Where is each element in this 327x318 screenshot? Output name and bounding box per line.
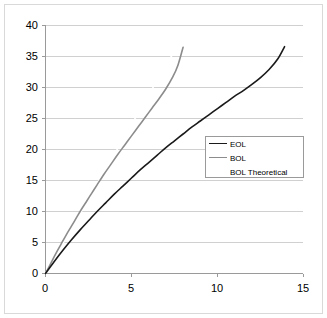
chart-legend: EOL BOL BOL Theoretical [205,136,304,178]
x-tick-label: 15 [290,283,316,294]
y-tick-label: 35 [12,51,38,62]
y-tick-label: 40 [12,20,38,31]
series-line-bol-theoretical [46,38,184,274]
x-tick-label: 5 [118,283,144,294]
x-tick-label: 0 [32,283,58,294]
y-axis-ticks [42,26,45,274]
legend-swatch-bol-icon [209,153,227,163]
y-tick-label: 20 [12,144,38,155]
chart-container: 40 35 30 25 20 15 10 5 0 0 5 10 15 EOL B… [0,0,327,318]
y-tick-label: 15 [12,175,38,186]
legend-label-bol: BOL [230,154,246,163]
y-tick-label: 25 [12,113,38,124]
x-axis-ticks [46,274,304,278]
legend-label-bol-theoretical: BOL Theoretical [230,168,287,177]
gridlines [45,26,303,243]
legend-item-eol: EOL [206,137,303,151]
legend-item-bol-theoretical: BOL Theoretical [206,165,303,179]
series-line-bol [46,47,184,273]
x-tick-label: 10 [204,283,230,294]
legend-swatch-eol-icon [209,139,227,149]
y-tick-label: 30 [12,82,38,93]
y-tick-label: 5 [12,237,38,248]
y-tick-label: 10 [12,206,38,217]
legend-item-bol: BOL [206,151,303,165]
legend-label-eol: EOL [230,140,246,149]
y-tick-label: 0 [12,268,38,279]
legend-swatch-bol-theoretical-icon [209,167,227,177]
